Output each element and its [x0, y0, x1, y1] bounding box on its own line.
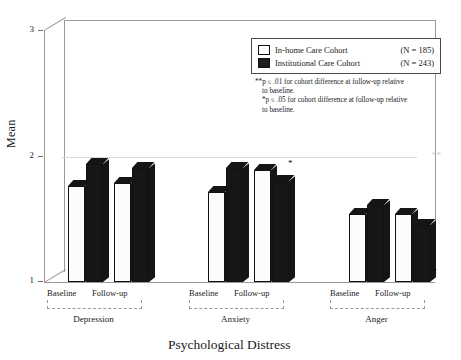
bar-front-face	[395, 214, 412, 282]
bar-front-face	[272, 181, 289, 282]
bar-group-depression	[62, 33, 182, 282]
footnote-2-line-2: to baseline.	[255, 106, 451, 115]
legend-swatch-institutional-icon	[258, 58, 270, 68]
legend-n-institutional: (N = 243)	[400, 58, 434, 68]
axis-back-top	[64, 20, 435, 21]
bar-front-face	[208, 192, 225, 282]
xtick-anger-baseline: Baseline	[330, 288, 359, 298]
bar-inhome-anxiety-followup[interactable]	[254, 170, 271, 282]
y-tick-3: 3	[18, 24, 34, 34]
legend-item-in-home[interactable]: In-home Care Cohort (N = 185)	[258, 43, 434, 56]
legend-label-in-home: In-home Care Cohort	[275, 45, 400, 55]
legend-swatch-in-home-icon	[258, 45, 270, 55]
bar-front-face	[86, 164, 103, 282]
bar-front-face	[349, 214, 366, 282]
bar-side-face	[384, 200, 390, 282]
bar-front-face	[254, 170, 271, 282]
group-bracket-depression	[47, 300, 142, 309]
bar-front-face	[132, 168, 149, 282]
significance-marker-anger-followup: **	[432, 151, 441, 160]
bar-inhome-depression-followup[interactable]	[114, 183, 131, 282]
bar-inhome-anger-baseline[interactable]	[349, 214, 366, 282]
legend: In-home Care Cohort (N = 185) Institutio…	[251, 38, 441, 74]
bar-front-face	[367, 205, 384, 282]
xtick-anxiety-followup: Follow-up	[234, 288, 269, 298]
legend-label-institutional: Institutional Care Cohort	[275, 58, 400, 68]
xtick-anger-followup: Follow-up	[375, 288, 410, 298]
bar-institutional-anger-followup[interactable]	[413, 225, 430, 282]
legend-item-institutional[interactable]: Institutional Care Cohort (N = 243)	[258, 56, 434, 69]
bar-front-face	[226, 168, 243, 282]
xtick-depression-baseline: Baseline	[47, 288, 76, 298]
bar-front-face	[68, 186, 85, 282]
axis-depth-diagonal-top	[44, 17, 66, 31]
axis-left-vertical	[44, 30, 45, 282]
chart-figure: Mean 3 2 1	[0, 0, 461, 360]
bar-front-face	[114, 183, 131, 282]
x-axis-title: Psychological Distress	[168, 337, 291, 353]
significance-marker-anxiety-followup: *	[288, 159, 293, 168]
bar-pair-depression-baseline	[68, 33, 108, 282]
bar-side-face	[430, 220, 436, 282]
bar-side-face	[103, 159, 109, 282]
xtick-depression-followup: Follow-up	[92, 288, 127, 298]
y-tick-mark-3	[38, 30, 43, 31]
group-bracket-anger	[330, 300, 425, 309]
group-label-anger: Anger	[330, 314, 423, 324]
bar-pair-depression-followup	[114, 33, 154, 282]
bar-institutional-anxiety-followup[interactable]	[272, 181, 289, 282]
bar-side-face	[149, 163, 155, 282]
bar-inhome-anxiety-baseline[interactable]	[208, 192, 225, 282]
y-tick-1: 1	[18, 275, 34, 285]
group-label-anxiety: Anxiety	[189, 314, 282, 324]
footnotes: **p ≤ .01 for cohort difference at follo…	[255, 78, 451, 115]
bar-institutional-depression-baseline[interactable]	[86, 164, 103, 282]
bar-institutional-depression-followup[interactable]	[132, 168, 149, 282]
y-tick-mark-1	[38, 281, 43, 282]
legend-n-in-home: (N = 185)	[400, 45, 434, 55]
group-bracket-anxiety	[189, 300, 284, 309]
bar-pair-anxiety-baseline	[208, 33, 248, 282]
footnote-1-line-2: to baseline.	[255, 87, 451, 96]
bar-inhome-depression-baseline[interactable]	[68, 186, 85, 282]
bar-front-face	[413, 225, 430, 282]
footnote-2-line-1: *p ≤ .05 for cohort difference at follow…	[255, 96, 451, 105]
xtick-anxiety-baseline: Baseline	[189, 288, 218, 298]
y-tick-2: 2	[18, 150, 34, 160]
bar-side-face	[243, 163, 249, 282]
y-axis-label: Mean	[4, 119, 19, 148]
y-tick-mark-2	[38, 156, 43, 157]
group-label-depression: Depression	[47, 314, 140, 324]
footnote-1-line-1: **p ≤ .01 for cohort difference at follo…	[255, 78, 451, 87]
bar-inhome-anger-followup[interactable]	[395, 214, 412, 282]
bar-institutional-anger-baseline[interactable]	[367, 205, 384, 282]
bar-institutional-anxiety-baseline[interactable]	[226, 168, 243, 282]
bar-side-face	[289, 176, 295, 282]
